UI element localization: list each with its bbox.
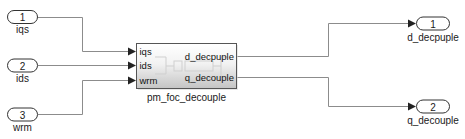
signal-line-q-decouple[interactable] [237, 78, 408, 107]
signal-line-d-decpuple[interactable] [237, 24, 408, 57]
inport-1[interactable]: 1 iqs [8, 11, 38, 36]
block-input-port-label: iqs [140, 46, 152, 57]
arrowhead-ids [128, 62, 136, 70]
inport-number: 3 [20, 110, 26, 121]
inport-number: 2 [20, 61, 26, 72]
outport-1[interactable]: 1 d_decpuple [407, 17, 459, 43]
arrowhead-outport-1 [408, 20, 416, 28]
inport-2[interactable]: 2 ids [8, 59, 38, 84]
arrowhead-iqs [128, 48, 136, 56]
outport-label[interactable]: d_decpuple [407, 32, 459, 43]
outport-2[interactable]: 2 q_decouple [407, 100, 459, 126]
block-name-label[interactable]: pm_foc_decouple [147, 92, 226, 103]
subsystem-block[interactable]: iqs ids wrm d_decpuple q_decouple pm_foc… [137, 44, 239, 104]
inport-label[interactable]: ids [16, 73, 29, 84]
signal-line-iqs[interactable] [38, 18, 128, 52]
block-output-port-label: d_decpuple [185, 51, 234, 62]
block-input-port-label: wrm [139, 75, 158, 86]
block-input-port-label: ids [140, 60, 152, 71]
block-output-port-label: q_decouple [185, 72, 234, 83]
inport-label[interactable]: wrm [12, 122, 32, 133]
arrowhead-outport-2 [408, 103, 416, 111]
arrowhead-wrm [128, 77, 136, 85]
inport-3[interactable]: 3 wrm [8, 108, 38, 133]
signal-line-wrm[interactable] [38, 81, 128, 115]
inport-label[interactable]: iqs [16, 24, 29, 35]
inport-number: 1 [20, 12, 26, 23]
outport-number: 2 [430, 102, 436, 113]
diagram-canvas: 1 iqs 2 ids 3 wrm iqs ids wrm d_decpuple… [0, 0, 465, 139]
outport-label[interactable]: q_decouple [407, 115, 459, 126]
outport-number: 1 [430, 19, 436, 30]
